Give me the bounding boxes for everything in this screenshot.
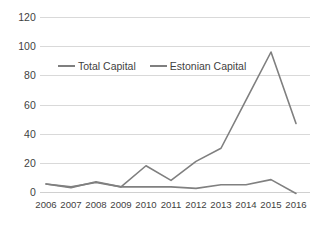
- legend-line-icon: [58, 65, 75, 67]
- legend-label-total-capital: Total Capital: [78, 61, 136, 72]
- legend-item-total-capital: Total Capital: [58, 58, 136, 74]
- legend-item-estonian-capital: Estonian Capital: [150, 58, 246, 74]
- legend-line-icon: [150, 65, 167, 67]
- line-chart: 120 100 80 60 40 20 0 2006 2007 2008 200…: [0, 0, 321, 226]
- legend-label-estonian-capital: Estonian Capital: [170, 61, 246, 72]
- chart-legend: Total Capital Estonian Capital: [58, 58, 246, 74]
- series-line-estonian-capital: [46, 180, 296, 194]
- series-layer: [0, 0, 321, 226]
